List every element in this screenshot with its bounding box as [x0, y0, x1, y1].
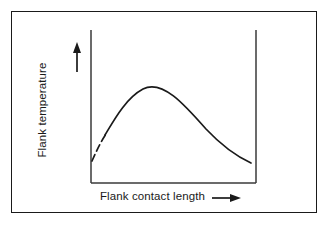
x-axis-label: Flank contact length [100, 190, 205, 202]
figure-root: Flank temperature Flank contact length [0, 0, 329, 225]
up-arrow-icon [73, 42, 81, 53]
curve-solid-segment [105, 87, 251, 163]
curve-dashed-segment [92, 134, 106, 161]
right-arrow-icon [230, 194, 241, 202]
y-axis-label: Flank temperature [36, 40, 48, 180]
